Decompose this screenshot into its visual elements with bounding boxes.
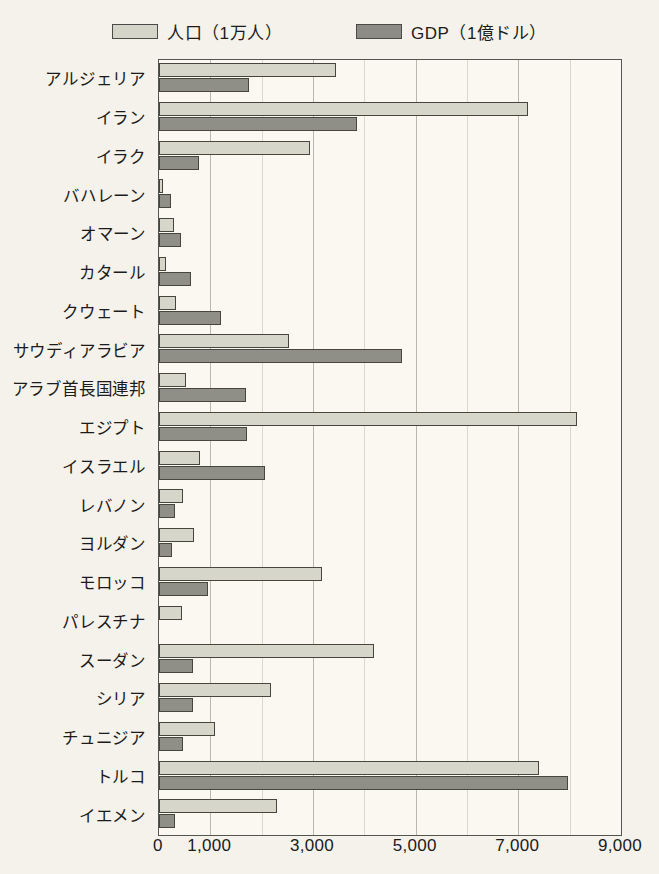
bar-row [159, 60, 621, 99]
legend-entry: 人口（1万人） [112, 19, 282, 44]
bar-row [159, 293, 621, 332]
bar-row [159, 603, 621, 642]
legend-label: GDP（1億ドル） [411, 19, 547, 44]
population-bar [159, 102, 528, 116]
gdp-bar [159, 543, 172, 557]
x-tick-label: 1,000 [187, 836, 231, 856]
bar-row [159, 448, 621, 487]
bar-row [159, 138, 621, 177]
category-label: シリア [96, 686, 146, 710]
gdp-bar [159, 659, 193, 673]
population-bar [159, 644, 374, 658]
population-bar [159, 218, 174, 232]
x-tick-label: 9,000 [598, 836, 642, 856]
bar-row [159, 409, 621, 448]
population-bar [159, 761, 539, 775]
population-bar [159, 412, 577, 426]
chart-legend: 人口（1万人）GDP（1億ドル） [0, 14, 659, 48]
gdp-bar [159, 311, 221, 325]
legend-entry: GDP（1億ドル） [356, 19, 547, 44]
bar-row [159, 331, 621, 370]
category-label: イスラエル [62, 454, 146, 478]
x-tick-label: 3,000 [290, 836, 334, 856]
x-tick-label: 7,000 [495, 836, 539, 856]
population-bar [159, 451, 200, 465]
gdp-bar [159, 737, 183, 751]
light-gray-swatch [112, 24, 158, 39]
bar-row [159, 719, 621, 758]
bar-row [159, 796, 621, 835]
category-label: バハレーン [63, 183, 146, 207]
category-label: スーダン [79, 648, 146, 672]
category-label: トルコ [96, 764, 146, 788]
gdp-bar [159, 388, 246, 402]
bar-row [159, 215, 621, 254]
x-axis-tick-labels: 01,0003,0005,0007,0009,000 [0, 836, 659, 870]
population-bar [159, 63, 336, 77]
population-bar [159, 606, 182, 620]
category-label: カタール [79, 260, 146, 284]
gdp-bar [159, 272, 191, 286]
bar-row [159, 370, 621, 409]
category-label: クウェート [62, 299, 146, 323]
bar-row [159, 254, 621, 293]
population-bar [159, 334, 289, 348]
bar-row [159, 176, 621, 215]
gdp-bar [159, 466, 265, 480]
bar-row [159, 525, 621, 564]
population-bar [159, 141, 310, 155]
category-label: アラブ首長国連邦 [12, 376, 146, 400]
category-label: パレスチナ [62, 609, 146, 633]
population-bar [159, 683, 271, 697]
category-label: レバノン [79, 493, 146, 517]
category-axis-labels: アルジェリアイランイラクバハレーンオマーンカタールクウェートサウディアラビアアラ… [0, 59, 152, 834]
category-label: エジプト [79, 415, 146, 439]
category-label: オマーン [80, 221, 146, 245]
plot-area [158, 59, 622, 836]
gdp-bar [159, 78, 249, 92]
gdp-bar [159, 582, 208, 596]
bar-chart: 人口（1万人）GDP（1億ドル） アルジェリアイランイラクバハレーンオマーンカタ… [0, 0, 659, 874]
population-bar [159, 179, 163, 193]
population-bar [159, 296, 176, 310]
gdp-bar [159, 814, 175, 828]
gdp-bar [159, 427, 247, 441]
gdp-bar [159, 194, 171, 208]
category-label: サウディアラビア [13, 338, 146, 362]
x-tick-label: 0 [153, 836, 163, 856]
population-bar [159, 567, 322, 581]
population-bar [159, 373, 186, 387]
x-tick-label: 5,000 [393, 836, 437, 856]
category-label: アルジェリア [45, 66, 146, 90]
bar-row [159, 486, 621, 525]
bar-row [159, 758, 621, 797]
population-bar [159, 528, 194, 542]
bar-row [159, 680, 621, 719]
dark-gray-swatch [356, 24, 402, 39]
population-bar [159, 722, 215, 736]
gdp-bar [159, 156, 199, 170]
gdp-bar [159, 117, 357, 131]
bar-row [159, 99, 621, 138]
gdp-bar [159, 776, 568, 790]
gdp-bar [159, 698, 193, 712]
bar-rows [159, 60, 621, 835]
legend-label: 人口（1万人） [167, 19, 282, 44]
population-bar [159, 799, 277, 813]
population-bar [159, 489, 183, 503]
category-label: チュニジア [62, 725, 146, 749]
gdp-bar [159, 233, 181, 247]
category-label: イラク [96, 144, 146, 168]
bar-row [159, 564, 621, 603]
population-bar [159, 257, 166, 271]
gdp-bar [159, 349, 402, 363]
category-label: イラン [96, 105, 146, 129]
category-label: モロッコ [79, 570, 146, 594]
category-label: ヨルダン [79, 531, 146, 555]
gdp-bar [159, 504, 175, 518]
bar-row [159, 641, 621, 680]
category-label: イエメン [79, 803, 146, 827]
